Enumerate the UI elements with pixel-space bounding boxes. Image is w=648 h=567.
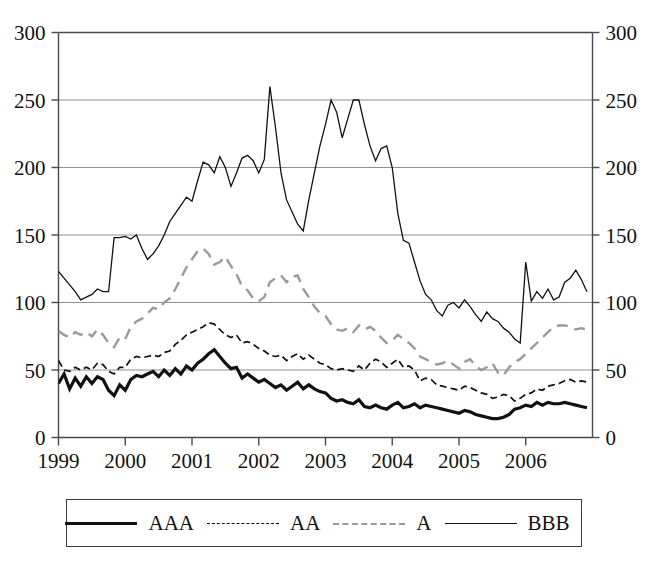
- x-axis-tick-label: 2003: [305, 449, 347, 473]
- x-axis-tick-label: 2000: [104, 449, 146, 473]
- y-axis-tick-label-left: 250: [14, 89, 46, 113]
- series-line-aa: [59, 323, 587, 401]
- series-line-aaa: [59, 350, 587, 419]
- y-axis-tick-label-right: 300: [606, 21, 638, 45]
- legend-line-sample-bbb: [445, 516, 517, 530]
- y-axis-tick-label-left: 150: [14, 224, 46, 248]
- x-axis-tick-label: 1999: [38, 449, 80, 473]
- chart-area: 0050501001001501502002002502503003001999…: [0, 0, 648, 495]
- y-axis-tick-label-left: 100: [14, 291, 46, 315]
- x-axis-tick-label: 2001: [171, 449, 213, 473]
- y-axis-tick-label-right: 50: [606, 359, 627, 383]
- y-axis-tick-label-right: 100: [606, 291, 638, 315]
- legend-line-sample-aaa: [65, 516, 137, 530]
- x-axis-tick-label: 2005: [438, 449, 480, 473]
- y-axis-tick-label-right: 150: [606, 224, 638, 248]
- series-line-bbb: [59, 87, 587, 344]
- y-axis-tick-label-right: 200: [606, 156, 638, 180]
- y-axis-tick-label-left: 200: [14, 156, 46, 180]
- x-axis-tick-label: 2002: [238, 449, 280, 473]
- legend-line-sample-aa: [207, 516, 279, 530]
- y-axis-tick-label-left: 0: [35, 426, 46, 450]
- legend-label: BBB: [517, 513, 583, 534]
- legend-entry-aaa: AAA: [65, 513, 207, 534]
- legend-label: AA: [279, 513, 333, 534]
- legend-label: A: [405, 513, 444, 534]
- y-axis-tick-label-right: 0: [606, 426, 617, 450]
- y-axis-tick-label-right: 250: [606, 89, 638, 113]
- x-axis-tick-label: 2004: [371, 449, 414, 473]
- series-group: [59, 87, 587, 419]
- y-axis-tick-label-left: 300: [14, 21, 46, 45]
- line-chart-svg: 0050501001001501502002002502503003001999…: [0, 0, 648, 495]
- chart-page: 0050501001001501502002002502503003001999…: [0, 0, 648, 567]
- y-axis-tick-label-left: 50: [25, 359, 46, 383]
- legend-entry-aa: AA: [207, 513, 333, 534]
- legend-entry-bbb: BBB: [445, 513, 583, 534]
- legend-entry-a: A: [333, 513, 444, 534]
- legend-line-sample-a: [333, 516, 405, 530]
- x-axis-tick-label: 2006: [505, 449, 547, 473]
- legend-label: AAA: [137, 513, 207, 534]
- chart-legend: AAAAAABBB: [66, 499, 582, 547]
